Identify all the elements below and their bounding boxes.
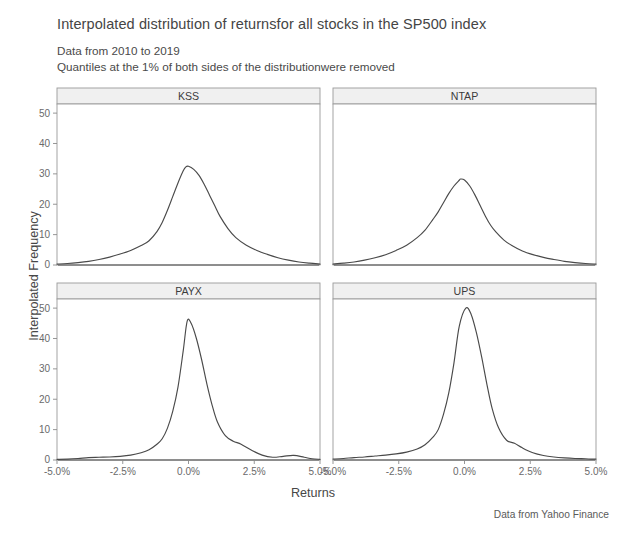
x-tick-label: 5.0% — [585, 466, 608, 477]
panel-frame-payx — [57, 299, 320, 460]
chart-figure: Interpolated distribution of returnsfor … — [0, 0, 626, 543]
panel-label-payx: PAYX — [175, 285, 202, 297]
x-tick-label: 2.5% — [243, 466, 266, 477]
y-tick-label: 50 — [39, 108, 51, 119]
x-tick-label: -2.5% — [386, 466, 412, 477]
x-tick-label: 0.0% — [177, 466, 200, 477]
panel-frame-ups — [333, 299, 596, 460]
x-tick-label: 2.5% — [519, 466, 542, 477]
x-tick-label: -5.0% — [320, 466, 346, 477]
y-axis-title: Interpolated Frequency — [27, 176, 41, 376]
y-tick-label: 20 — [39, 394, 51, 405]
y-tick-label: 40 — [39, 138, 51, 149]
facet-plot-canvas: KSS01020304050NTAPPAYX01020304050-5.0%-2… — [0, 0, 626, 543]
panel-label-ups: UPS — [454, 285, 476, 297]
panel-label-kss: KSS — [178, 90, 199, 102]
panel-label-ntap: NTAP — [451, 90, 478, 102]
y-tick-label: 0 — [44, 259, 50, 270]
panel-frame-kss — [57, 104, 320, 265]
y-tick-label: 10 — [39, 424, 51, 435]
panel-frame-ntap — [333, 104, 596, 265]
y-tick-label: 0 — [44, 454, 50, 465]
x-axis-title: Returns — [0, 486, 626, 500]
x-tick-label: 0.0% — [453, 466, 476, 477]
x-tick-label: -2.5% — [110, 466, 136, 477]
x-tick-label: -5.0% — [44, 466, 70, 477]
chart-caption: Data from Yahoo Finance — [494, 509, 609, 520]
